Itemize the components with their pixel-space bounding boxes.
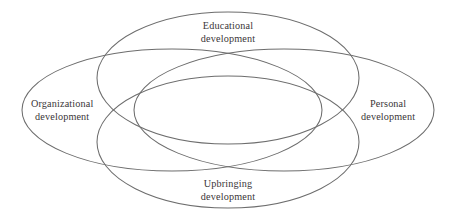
- venn-diagram: Educational development Organizational d…: [0, 0, 456, 220]
- set-label-personal: Personal development: [361, 97, 415, 123]
- set-label-organizational-line1: Organizational: [31, 97, 93, 110]
- set-label-educational-line2: development: [0, 32, 456, 45]
- set-label-educational-line1: Educational: [0, 19, 456, 32]
- set-label-personal-line1: Personal: [361, 97, 415, 110]
- set-label-educational: Educational development: [0, 19, 456, 45]
- set-label-personal-line2: development: [361, 110, 415, 123]
- set-label-organizational: Organizational development: [31, 97, 93, 123]
- set-label-upbringing-line1: Upbringing: [0, 177, 456, 190]
- set-label-upbringing: Upbringing development: [0, 177, 456, 203]
- set-label-organizational-line2: development: [31, 110, 93, 123]
- set-label-upbringing-line2: development: [0, 190, 456, 203]
